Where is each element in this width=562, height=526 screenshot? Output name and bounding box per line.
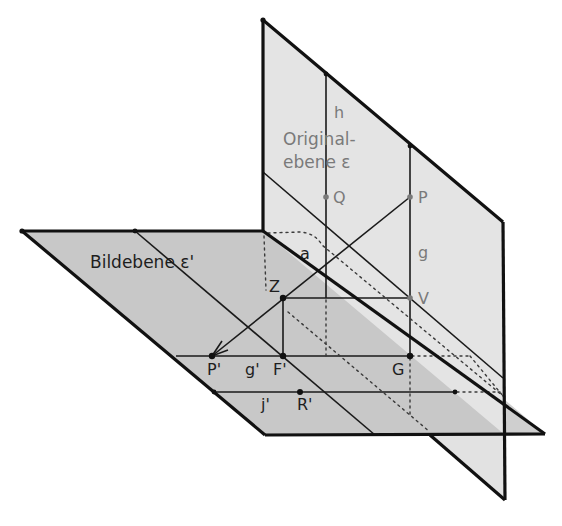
- diagram-canvas: h Original- ebene ε Q P g V Bildebene ε'…: [0, 0, 562, 526]
- point-V: [407, 295, 413, 301]
- point-Q: [323, 194, 329, 200]
- label-P: P: [418, 188, 428, 207]
- label-j-prime: j': [260, 395, 270, 414]
- label-V: V: [418, 289, 429, 308]
- label-h: h: [334, 103, 344, 122]
- point-P: [407, 194, 413, 200]
- label-P-prime: P': [207, 360, 221, 379]
- point-top-of-vertical: [260, 17, 265, 22]
- label-original-plane-2: ebene ε: [283, 152, 351, 172]
- label-g-prime: g': [245, 360, 260, 379]
- label-R-prime: R': [297, 395, 313, 414]
- label-Q: Q: [333, 188, 346, 207]
- point-top-of-line1: [133, 229, 138, 234]
- label-g: g: [418, 243, 428, 262]
- point-j-right: [453, 390, 458, 395]
- point-Z: [280, 295, 286, 301]
- label-Z: Z: [269, 277, 280, 296]
- label-original-plane-1: Original-: [283, 129, 356, 149]
- point-P-prime: [209, 353, 215, 359]
- label-a: a: [300, 244, 310, 263]
- point-G: [407, 353, 413, 359]
- label-F-prime: F': [273, 360, 287, 379]
- projection-diagram: h Original- ebene ε Q P g V Bildebene ε'…: [0, 0, 562, 526]
- point-top-h: [324, 72, 329, 77]
- original-plane-right-edge: [503, 222, 505, 500]
- image-plane-bottom-edge: [265, 434, 545, 435]
- point-top-g: [408, 144, 413, 149]
- label-G: G: [392, 360, 404, 379]
- label-image-plane: Bildebene ε': [90, 252, 194, 272]
- point-j-left: [212, 390, 217, 395]
- point-top-left-corner: [19, 228, 24, 233]
- point-F-prime: [280, 353, 286, 359]
